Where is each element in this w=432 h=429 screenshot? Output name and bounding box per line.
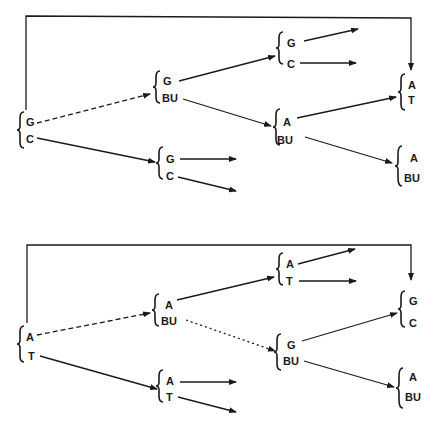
- brace-icon: [156, 147, 163, 179]
- arrow: [304, 361, 394, 387]
- node-label: T: [286, 275, 293, 287]
- node-label: A: [166, 375, 174, 387]
- brace-icon: [398, 291, 405, 327]
- brace-icon: [396, 368, 403, 408]
- arrow: [179, 56, 275, 81]
- arrow: [298, 249, 355, 264]
- arrow: [305, 137, 392, 163]
- node-label: A: [408, 79, 416, 91]
- node-label: G: [166, 153, 175, 165]
- node-label: BU: [277, 134, 293, 146]
- brace-icon: [156, 370, 163, 402]
- brace-icon: [395, 146, 402, 186]
- brace-icon: [153, 71, 160, 103]
- dashed-arrow: [37, 94, 150, 123]
- node-label: BU: [404, 172, 420, 184]
- base-pairing-diagram: G C G BU G C G C A BU A T: [0, 0, 432, 429]
- node-label: G: [163, 75, 172, 87]
- node-label: A: [286, 258, 294, 270]
- brace-icon: [274, 334, 281, 370]
- node-label: C: [26, 133, 34, 145]
- node-label: T: [28, 350, 35, 362]
- node-label: C: [287, 58, 295, 70]
- node-label: BU: [161, 315, 177, 327]
- brace-icon: [276, 253, 283, 285]
- node-label: BU: [283, 355, 299, 367]
- brace-icon: [17, 112, 24, 148]
- node-label: C: [409, 317, 417, 329]
- arrow: [304, 29, 358, 41]
- node-label: A: [283, 116, 291, 128]
- arrow: [177, 277, 274, 300]
- brace-icon: [398, 74, 405, 110]
- brace-icon: [152, 294, 159, 326]
- node-label: G: [409, 295, 418, 307]
- node-label: G: [26, 116, 35, 128]
- feedback-line: [27, 245, 411, 323]
- arrow: [178, 397, 236, 412]
- node-label: C: [166, 170, 174, 182]
- dotted-arrow: [186, 320, 275, 351]
- arrow: [297, 97, 396, 118]
- arrow: [40, 356, 157, 389]
- node-label: BU: [405, 391, 421, 403]
- node-label: A: [410, 152, 418, 164]
- brace-icon: [17, 326, 24, 362]
- top-diagram: G C G BU G C G C A BU A T: [17, 16, 420, 191]
- node-label: G: [287, 37, 296, 49]
- node-label: T: [166, 391, 173, 403]
- node-label: T: [408, 94, 415, 106]
- bottom-diagram: A T A BU A T A T G BU G C: [17, 245, 421, 412]
- arrow: [178, 177, 236, 191]
- arrow: [302, 313, 397, 341]
- node-label: A: [409, 371, 417, 383]
- node-label: G: [287, 339, 296, 351]
- arrow: [183, 99, 271, 126]
- node-label: BU: [162, 92, 178, 104]
- brace-icon: [276, 32, 283, 64]
- node-label: A: [165, 299, 173, 311]
- dashed-arrow: [37, 313, 150, 335]
- arrow: [37, 138, 155, 162]
- node-label: A: [26, 331, 34, 343]
